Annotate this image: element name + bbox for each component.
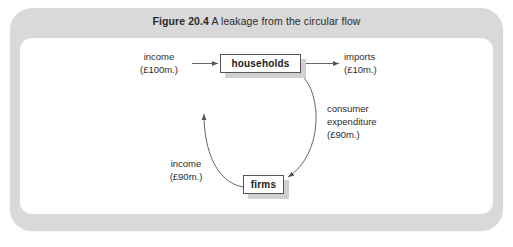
label-consumer-expenditure-line2: expenditure <box>327 115 407 128</box>
figure-screenshot: Figure 20.4 A leakage from the circular … <box>0 0 513 247</box>
label-income-out-name: income <box>157 157 215 170</box>
label-income-in-name: income <box>128 50 190 63</box>
label-imports: imports (£10m.) <box>344 50 406 76</box>
label-income-in-amount: (£100m.) <box>128 63 190 76</box>
label-consumer-expenditure: consumer expenditure (£90m.) <box>327 102 407 141</box>
label-imports-name: imports <box>344 50 406 63</box>
node-firms: firms <box>243 175 284 194</box>
arc-consumer-expenditure <box>288 75 316 177</box>
label-imports-amount: (£10m.) <box>344 63 406 76</box>
label-income-in: income (£100m.) <box>128 50 190 76</box>
circular-flow-diagram: households firms income (£100m.) imports… <box>0 0 513 247</box>
node-households: households <box>220 54 301 73</box>
label-consumer-expenditure-line1: consumer <box>327 102 407 115</box>
label-income-out-amount: (£90m.) <box>157 170 215 183</box>
node-firms-label: firms <box>251 179 276 190</box>
label-income-out: income (£90m.) <box>157 157 215 183</box>
node-households-label: households <box>231 58 289 69</box>
flow-arrows-layer <box>0 0 513 247</box>
label-consumer-expenditure-amount: (£90m.) <box>327 128 407 141</box>
